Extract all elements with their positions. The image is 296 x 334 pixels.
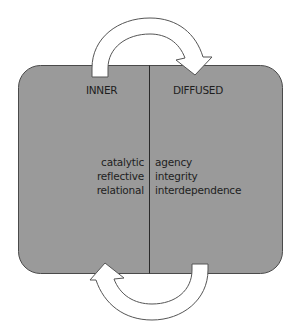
diffused-item-agency: agency — [155, 155, 241, 169]
inner-item-catalytic: catalytic — [97, 155, 144, 169]
diffused-item-interdependence: interdependence — [155, 183, 241, 197]
diagram-canvas: INNER DIFFUSED catalytic reflective rela… — [0, 0, 296, 334]
inner-items-list: catalytic reflective relational — [97, 155, 144, 197]
main-box — [19, 66, 283, 274]
inner-header: INNER — [86, 83, 117, 97]
diffused-header: DIFFUSED — [173, 83, 223, 97]
inner-item-relational: relational — [97, 183, 144, 197]
inner-item-reflective: reflective — [97, 169, 144, 183]
diffused-item-integrity: integrity — [155, 169, 241, 183]
diffused-items-list: agency integrity interdependence — [155, 155, 241, 197]
diagram-graphics — [0, 0, 296, 334]
